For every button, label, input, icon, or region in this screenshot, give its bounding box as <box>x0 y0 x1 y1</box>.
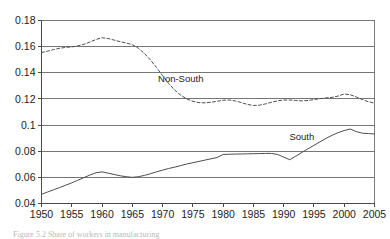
x-tick-label: 1960 <box>90 208 114 220</box>
x-tick-label: 1955 <box>60 208 84 220</box>
y-tick-label: 0.12 <box>15 93 36 105</box>
x-tick-label: 1980 <box>211 208 235 220</box>
x-tick-label: 1950 <box>30 208 54 220</box>
x-tick-label: 2005 <box>363 208 387 220</box>
x-tick-label: 1975 <box>181 208 205 220</box>
y-tick-label: 0.14 <box>15 66 36 78</box>
x-tick-label: 1985 <box>242 208 266 220</box>
y-tick-label: 0.18 <box>15 14 36 26</box>
line-chart: 0.040.060.080.10.120.140.160.18 19501955… <box>0 0 390 239</box>
annotation-non-south: Non-South <box>158 73 203 84</box>
y-tick-label: 0.16 <box>15 40 36 52</box>
x-tick-label: 1965 <box>121 208 145 220</box>
annotation-south: South <box>289 131 314 142</box>
y-tick-label: 0.08 <box>15 145 36 157</box>
x-tick-label: 1990 <box>272 208 296 220</box>
x-tick-label: 1970 <box>151 208 175 220</box>
y-tick-label: 0.06 <box>15 171 36 183</box>
figure-container: 0.040.060.080.10.120.140.160.18 19501955… <box>0 0 390 239</box>
x-tick-label: 1995 <box>302 208 326 220</box>
x-tick-label: 2000 <box>333 208 357 220</box>
figure-caption: Figure 5.2 Share of workers in manufactu… <box>13 230 383 239</box>
y-tick-label: 0.1 <box>21 119 36 131</box>
